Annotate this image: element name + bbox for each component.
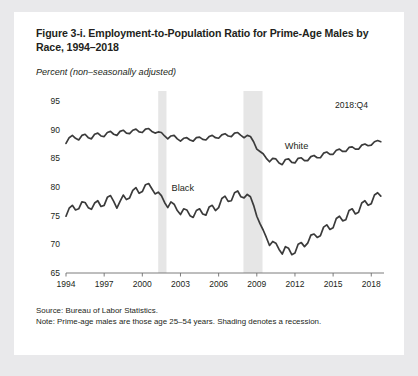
x-tick-label: 1997 xyxy=(95,279,114,289)
x-tick-label: 2018 xyxy=(362,279,381,289)
recession-band xyxy=(158,91,166,273)
y-tick-label: 85 xyxy=(51,153,61,163)
series-line-black xyxy=(66,184,381,255)
figure-page: Figure 3-i. Employment-to-Population Rat… xyxy=(0,0,418,376)
y-tick-label: 65 xyxy=(51,268,61,278)
x-tick-label: 2012 xyxy=(285,279,304,289)
series-line-white xyxy=(66,129,381,165)
page-title: Figure 3-i. Employment-to-Population Rat… xyxy=(36,26,381,54)
y-tick-label: 95 xyxy=(51,96,61,106)
recession-shading-group xyxy=(158,91,262,273)
y-tick-label: 70 xyxy=(51,239,61,249)
figure-card: Figure 3-i. Employment-to-Population Rat… xyxy=(14,12,404,355)
y-axis-tick-labels: 65707580859095 xyxy=(51,96,61,278)
line-chart-svg: 65707580859095 1994199720002003200620092… xyxy=(36,80,386,295)
y-tick-label: 90 xyxy=(51,125,61,135)
x-tick-label: 2003 xyxy=(171,279,190,289)
y-tick-label: 80 xyxy=(51,182,61,192)
methodology-note: Note: Prime-age males are those age 25–5… xyxy=(36,316,388,327)
source-note: Source: Bureau of Labor Statistics. xyxy=(36,305,388,316)
x-axis-tick-labels: 199419972000200320062009201220152018 xyxy=(57,273,381,289)
figure-footnotes: Source: Bureau of Labor Statistics. Note… xyxy=(36,305,388,327)
x-tick-label: 2015 xyxy=(324,279,343,289)
series-line-group xyxy=(66,129,381,255)
recession-band xyxy=(243,91,262,273)
x-tick-label: 2009 xyxy=(247,279,266,289)
chart-plot-area: 65707580859095 1994199720002003200620092… xyxy=(36,80,386,295)
y-axis-units-label: Percent (non–seasonally adjusted) xyxy=(36,67,176,77)
y-tick-label: 75 xyxy=(51,211,61,221)
x-tick-label: 1994 xyxy=(57,279,76,289)
x-tick-label: 2000 xyxy=(133,279,152,289)
x-tick-label: 2006 xyxy=(209,279,228,289)
